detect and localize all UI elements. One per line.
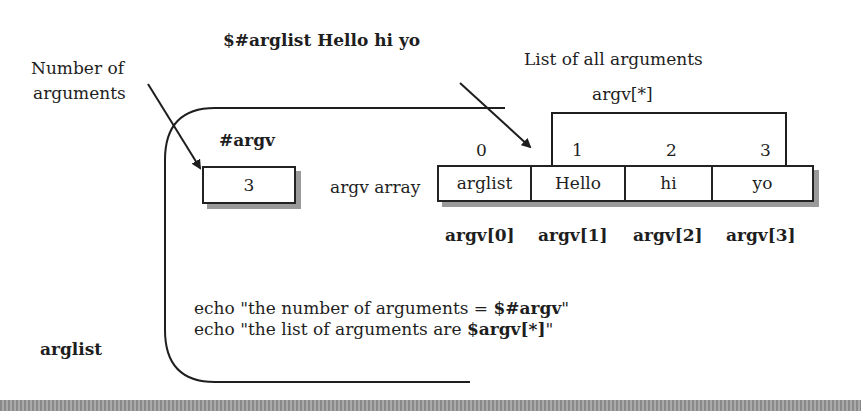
argument-count-value: 3 — [244, 175, 255, 195]
code-line-1: echo "the number of arguments = $#argv" — [194, 298, 569, 318]
code-line-2-var: $argv[*] — [467, 319, 546, 339]
argv-name-0: argv[0] — [445, 225, 515, 245]
argv-cell-2: hi — [624, 165, 713, 202]
argv-name-2: argv[2] — [633, 225, 703, 245]
code-line-2-close: " — [545, 319, 553, 339]
argv-name-3: argv[3] — [726, 225, 796, 245]
argv-cell-0-value: arglist — [457, 173, 513, 193]
code-line-1-close: " — [561, 298, 569, 318]
bottom-divider — [0, 400, 861, 411]
code-line-2-text: echo "the list of arguments are — [194, 319, 467, 339]
argv-name-1: argv[1] — [538, 225, 608, 245]
index-3: 3 — [760, 140, 770, 160]
arrow-to-array — [460, 83, 530, 147]
code-line-2: echo "the list of arguments are $argv[*]… — [194, 319, 553, 339]
index-0: 0 — [476, 140, 486, 160]
script-outline — [165, 108, 505, 382]
argument-count-box: 3 — [202, 166, 296, 204]
argv-star-label: argv[*] — [592, 84, 653, 104]
number-of-arguments-label-1: Number of — [31, 58, 124, 78]
hash-argv-label: #argv — [219, 130, 275, 150]
index-1: 1 — [572, 140, 582, 160]
number-of-arguments-label-2: arguments — [33, 83, 126, 103]
arrow-to-count — [148, 84, 200, 168]
script-name-label: arglist — [40, 339, 102, 359]
argv-cell-2-value: hi — [660, 173, 676, 193]
argv-array-label: argv array — [330, 177, 420, 197]
argv-cell-3: yo — [711, 165, 814, 202]
code-line-1-text: echo "the number of arguments = — [194, 298, 493, 318]
argv-cell-1-value: Hello — [555, 173, 601, 193]
code-line-1-var: $#argv — [493, 298, 561, 318]
command-line-label: $#arglist Hello hi yo — [223, 30, 420, 50]
list-of-all-arguments-label: List of all arguments — [524, 49, 703, 69]
argv-cell-1: Hello — [530, 165, 626, 202]
argv-cell-0: arglist — [437, 165, 532, 202]
index-2: 2 — [666, 140, 676, 160]
argv-cell-3-value: yo — [753, 173, 773, 193]
diagram-lines — [0, 0, 861, 411]
